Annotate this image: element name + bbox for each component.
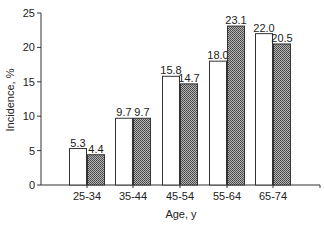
bar xyxy=(134,118,151,185)
y-tick-label: 25 xyxy=(23,7,35,19)
y-tick-label: 5 xyxy=(29,145,35,157)
bar-value-label: 23.1 xyxy=(225,14,246,26)
y-tick-label: 10 xyxy=(23,110,35,122)
bar xyxy=(274,44,291,185)
bar xyxy=(228,26,245,185)
y-tick-label: 0 xyxy=(29,179,35,191)
y-tick-label: 20 xyxy=(23,41,35,53)
bar xyxy=(163,76,180,185)
bar-value-label: 9.7 xyxy=(134,106,149,118)
x-axis: 25-3435-4445-5455-6465-74 xyxy=(41,185,320,202)
bar-value-label: 5.3 xyxy=(70,137,85,149)
x-tick-label: 25-34 xyxy=(73,190,101,202)
bar-value-label: 4.4 xyxy=(88,143,103,155)
y-tick-label: 15 xyxy=(23,76,35,88)
x-tick-label: 45-54 xyxy=(166,190,194,202)
x-axis-title: Age, y xyxy=(165,208,197,220)
bar xyxy=(181,84,198,185)
bar-value-label: 20.5 xyxy=(271,32,292,44)
bar-value-label: 9.7 xyxy=(116,106,131,118)
bar xyxy=(256,34,273,185)
bars: 5.34.49.79.715.814.718.023.122.020.5 xyxy=(70,14,293,185)
x-tick-label: 55-64 xyxy=(213,190,241,202)
bar-value-label: 14.7 xyxy=(178,72,199,84)
bar-chart: 0510152025 25-3435-4445-5455-6465-74 5.3… xyxy=(0,0,324,227)
bar xyxy=(116,118,133,185)
bar xyxy=(88,155,105,185)
x-tick-label: 65-74 xyxy=(259,190,287,202)
y-axis: 0510152025 xyxy=(23,7,41,191)
bar-value-label: 18.0 xyxy=(207,49,228,61)
y-axis-title: Incidence, % xyxy=(4,68,16,131)
bar xyxy=(70,149,87,185)
bar xyxy=(210,61,227,185)
x-tick-label: 35-44 xyxy=(119,190,147,202)
